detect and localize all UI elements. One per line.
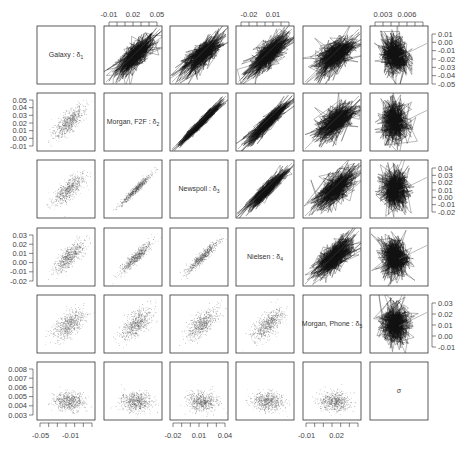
panel-frame <box>170 295 228 353</box>
left-tick-label: 0.006 <box>8 383 27 392</box>
right-tick-label: -0.05 <box>438 80 455 89</box>
left-tick-label: 0.003 <box>8 411 27 420</box>
bottom-tick-label: -0.02 <box>164 431 181 440</box>
top-tick-label: 0.02 <box>126 10 141 19</box>
left-tick-label: 0.03 <box>12 231 27 240</box>
right-tick-label: 0.00 <box>438 332 453 341</box>
scatter-panel <box>303 362 361 420</box>
scatter-panel <box>303 158 369 218</box>
top-tick-label: 0.006 <box>398 10 417 19</box>
panel-grid: Galaxy : δ1Morgan, F2F : δ2Newspoll : δ3… <box>37 19 428 424</box>
panel-frame <box>170 362 228 420</box>
scatter-panel <box>236 295 297 353</box>
left-tick-label: -0.01 <box>10 142 27 151</box>
diagonal-panel: σ <box>370 362 428 420</box>
top-tick-label: -0.02 <box>240 10 257 19</box>
bottom-tick-label: -0.01 <box>298 431 315 440</box>
bottom-tick-label: -0.01 <box>62 431 79 440</box>
top-tick-label: 0.003 <box>374 10 393 19</box>
scatter-panel <box>104 228 164 286</box>
left-tick-label: 0.005 <box>8 392 27 401</box>
panel-frame <box>170 228 228 286</box>
diagonal-panel: Morgan, F2F : δ2 <box>104 93 162 151</box>
scatter-panel <box>104 295 162 353</box>
right-tick-label: 0.03 <box>438 299 453 308</box>
left-tick-label: -0.02 <box>10 277 27 286</box>
scatter-panel <box>37 362 95 420</box>
scatter-panel <box>303 226 366 286</box>
scatter-panel <box>236 155 304 222</box>
left-tick-label: -0.01 <box>10 267 27 276</box>
scatter-panel <box>303 92 369 151</box>
panel-frame <box>303 362 361 420</box>
diagonal-panel: Newspoll : δ3 <box>170 160 228 218</box>
scatter-panel <box>370 146 428 218</box>
right-tick-label: -0.01 <box>438 343 455 352</box>
bottom-tick-label: 0.04 <box>218 431 233 440</box>
right-tick-label: 0.02 <box>438 310 453 319</box>
panel-frame <box>37 362 95 420</box>
scatter-panel <box>104 362 162 420</box>
variable-label: Galaxy : δ1 <box>49 51 84 60</box>
scatter-panel <box>234 93 298 159</box>
right-tick-label: 0.01 <box>438 321 453 330</box>
top-tick-label: -0.01 <box>100 10 117 19</box>
left-tick-label: 0.00 <box>12 258 27 267</box>
left-tick-label: 0.01 <box>12 249 27 258</box>
variable-label: Nielsen : δ4 <box>247 253 283 262</box>
variable-label: Morgan, Phone : δ5 <box>302 320 363 329</box>
scatter-panel <box>301 23 369 86</box>
top-tick-label: 0.05 <box>150 10 165 19</box>
right-tick-label: -0.02 <box>438 208 455 217</box>
scatter-panel <box>170 93 233 151</box>
bottom-tick-label: 0.01 <box>192 431 207 440</box>
scatter-panel <box>104 160 162 218</box>
scatter-panel <box>370 281 428 353</box>
scatter-panel <box>164 26 229 89</box>
left-tick-label: 0.007 <box>8 374 27 383</box>
left-tick-label: 0.004 <box>8 401 27 410</box>
scatter-panel <box>236 362 294 424</box>
scatter-panel <box>37 160 95 218</box>
scatter-panel <box>170 228 228 286</box>
scatter-panel <box>370 88 428 154</box>
bottom-tick-label: -0.05 <box>32 431 49 440</box>
scatter-panel <box>166 295 228 353</box>
scatter-panel <box>170 362 228 420</box>
panel-frame <box>104 362 162 420</box>
left-tick-label: 0.008 <box>8 365 27 374</box>
scatter-panel <box>37 228 95 286</box>
pairs-plot: Galaxy : δ1Morgan, F2F : δ2Newspoll : δ3… <box>0 0 466 454</box>
top-tick-label: 0.01 <box>266 10 281 19</box>
scatter-panel <box>370 19 428 87</box>
diagonal-panel: Morgan, Phone : δ5 <box>302 295 363 353</box>
variable-label: σ <box>397 387 402 394</box>
bottom-tick-label: 0.02 <box>329 431 344 440</box>
variable-label: Morgan, F2F : δ2 <box>107 118 160 127</box>
variable-label: Newspoll : δ3 <box>179 185 220 194</box>
scatter-panel <box>234 26 298 91</box>
diagonal-panel: Nielsen : δ4 <box>236 228 294 286</box>
scatter-panel <box>370 228 428 287</box>
scatter-panel <box>37 93 102 151</box>
left-tick-label: 0.02 <box>12 240 27 249</box>
panel-frame <box>236 362 294 420</box>
scatter-panel <box>37 295 98 353</box>
scatter-panel <box>101 26 169 90</box>
diagonal-panel: Galaxy : δ1 <box>37 26 95 84</box>
